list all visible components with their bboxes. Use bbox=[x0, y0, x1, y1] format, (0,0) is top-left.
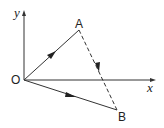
y-axis-label: y bbox=[12, 5, 20, 20]
y-axis-arrowhead-icon bbox=[22, 10, 26, 16]
origin-label: O bbox=[11, 73, 20, 87]
vector-ab-arrowhead-icon bbox=[95, 62, 100, 72]
vector-diagram: y x O A B bbox=[0, 0, 164, 128]
x-axis-label: x bbox=[146, 80, 153, 95]
point-a-label: A bbox=[75, 17, 83, 31]
point-b-label: B bbox=[118, 110, 126, 124]
vector-ab bbox=[79, 30, 117, 110]
vector-ob-arrowhead-icon bbox=[65, 92, 76, 97]
